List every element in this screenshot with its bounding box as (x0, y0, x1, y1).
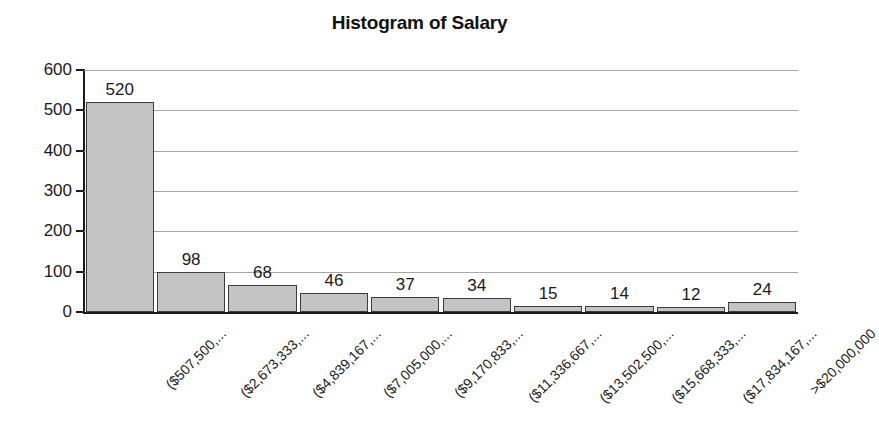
y-tick-mark (76, 109, 83, 111)
bar-value-label: 520 (86, 81, 154, 98)
bar-value-label: 46 (300, 272, 368, 289)
gridline (84, 110, 798, 111)
x-category-label: ($9,170,833,... (452, 326, 526, 400)
bar-value-label: 34 (443, 277, 511, 294)
chart-title: Histogram of Salary (0, 12, 839, 34)
y-tick-label: 200 (2, 222, 72, 239)
bar (86, 102, 154, 312)
bar-value-label: 68 (228, 264, 296, 281)
plot-area (84, 70, 798, 312)
gridline (84, 231, 798, 232)
x-category-label: ($2,673,333,... (238, 326, 312, 400)
y-tick-mark (76, 311, 83, 313)
gridline (84, 191, 798, 192)
bar-value-label: 15 (514, 285, 582, 302)
bar (443, 298, 511, 312)
gridline (84, 70, 798, 71)
y-tick-label: 400 (2, 142, 72, 159)
bar-value-label: 14 (585, 285, 653, 302)
axis-baseline (84, 312, 798, 314)
y-tick-label: 600 (2, 61, 72, 78)
y-tick-label: 500 (2, 101, 72, 118)
y-axis-tick-labels: 0100200300400500600 (0, 0, 72, 433)
bar (657, 307, 725, 312)
y-tick-label: 0 (2, 303, 72, 320)
bar (157, 272, 225, 312)
y-tick-mark (76, 190, 83, 192)
bar (228, 285, 296, 312)
x-category-label: ($7,005,000,... (380, 326, 454, 400)
bar-value-label: 37 (371, 276, 439, 293)
gridline (84, 151, 798, 152)
bar-value-label: 98 (157, 251, 225, 268)
x-category-label: ($4,839,167,... (309, 326, 383, 400)
bar (585, 306, 653, 312)
x-category-label: ($11,336,667,... (525, 326, 604, 405)
bar-value-label: 12 (657, 286, 725, 303)
bar (371, 297, 439, 312)
y-tick-mark (76, 150, 83, 152)
y-tick-mark (76, 271, 83, 273)
bar (300, 293, 368, 312)
x-category-label: ($15,668,333,... (668, 326, 747, 405)
x-category-label: ($17,834,167,... (740, 326, 819, 405)
y-tick-label: 300 (2, 182, 72, 199)
bar-value-label: 24 (728, 281, 796, 298)
bar (728, 302, 796, 312)
y-tick-label: 100 (2, 263, 72, 280)
y-tick-mark (76, 230, 83, 232)
bar (514, 306, 582, 312)
y-tick-mark (76, 69, 83, 71)
x-category-label: ($13,502,500,... (597, 326, 676, 405)
x-category-label: ($507,500,... (163, 326, 228, 391)
